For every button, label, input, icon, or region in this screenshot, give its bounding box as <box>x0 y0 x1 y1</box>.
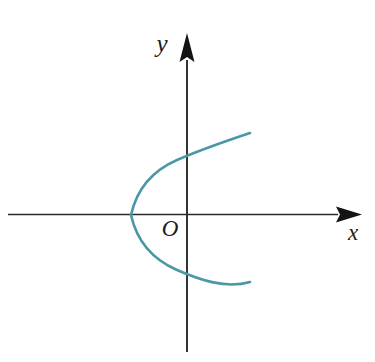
parabola-curve <box>131 133 250 284</box>
figure-container: y x O <box>0 0 375 362</box>
origin-label: O <box>162 216 179 241</box>
coordinate-plane-diagram: y x O <box>0 0 375 362</box>
x-axis-label: x <box>347 220 359 245</box>
y-axis-label: y <box>153 30 168 57</box>
y-axis-arrowhead-icon <box>180 33 195 62</box>
